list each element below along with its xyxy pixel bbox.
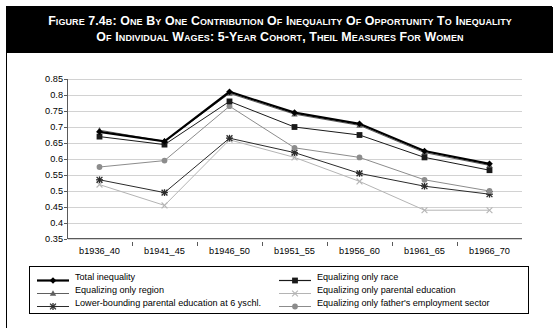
x-axis-tick-label: b1941_45 [144,246,185,256]
data-point-square [227,99,233,105]
legend-item[interactable]: Total inequality [36,271,272,284]
figure-title-banner: Figure 7.4b: One by One Contribution of … [7,7,553,53]
x-axis-tickmark [457,242,458,246]
series-layer [67,79,522,239]
legend-marker-diamond-icon [36,272,70,283]
x-axis-tick-label: b1951_55 [274,246,315,256]
data-point-asterisk [421,183,428,190]
chart-legend: Total inequalityEqualizing only raceEqua… [29,266,529,314]
x-axis-tick-label: b1961_65 [404,246,445,256]
data-point-circle [292,304,298,310]
chart-plate: 0.850.80.750.70.650.60.550.50.450.40.35 … [7,53,553,329]
x-axis-tick-label: b1956_60 [339,246,380,256]
series-lower-bounding-parental-education-at-6-yschl [96,135,493,198]
data-point-square [487,167,493,173]
legend-item-label: Total inequality [75,272,135,283]
x-axis-tick-label: b1936_40 [79,246,120,256]
figure-title-line-2: of Individual Wages: 5-year Cohort, Thei… [96,30,463,44]
data-point-circle [97,164,103,170]
x-axis-tick-label: b1966_70 [469,246,510,256]
x-axis-tickmark [327,242,328,246]
page-title: Figure 7.4b: One by One Contribution of … [48,14,512,45]
legend-item-label: Equalizing only region [75,285,164,296]
legend-item[interactable]: Equalizing only region [36,284,272,297]
legend-marker-circle-icon [278,298,312,309]
figure-number-label: Figure 7.4b: [48,14,117,28]
x-axis-tickmark [197,242,198,246]
x-axis-tick-label: b1946_50 [209,246,250,256]
data-point-circle [487,188,493,194]
legend-item-label: Equalizing only race [317,272,398,283]
legend-item-label: Equalizing only parental education [317,285,456,296]
data-point-asterisk [96,176,103,183]
data-point-diamond [486,161,493,168]
data-point-square [357,132,363,138]
figure-page: Figure 7.4b: One by One Contribution of … [0,0,558,336]
data-point-x [357,179,363,185]
series-equalizing-only-father-s-employment-sector [97,103,493,194]
data-point-x [162,203,168,209]
legend-item[interactable]: Equalizing only parental education [278,284,522,297]
legend-marker-asterisk-icon [36,298,70,309]
figure-title-line-1: One by One Contribution of Inequality of… [120,14,512,28]
legend-item-label: Equalizing only father's employment sect… [317,298,490,309]
legend-marker-square-icon [278,272,312,283]
legend-item[interactable]: Lower-bounding parental education at 6 y… [36,297,272,310]
y-axis-tickmarks [7,79,67,239]
x-axis-tickmark [132,242,133,246]
data-point-circle [162,158,168,164]
figure-frame: Figure 7.4b: One by One Contribution of … [6,6,552,328]
data-point-asterisk [50,303,57,310]
data-point-asterisk [226,135,233,142]
legend-item-label: Lower-bounding parental education at 6 y… [75,298,261,309]
data-point-asterisk [161,189,168,196]
x-axis-labels: b1936_40b1941_45b1946_50b1951_55b1956_60… [67,242,522,264]
legend-grid: Total inequalityEqualizing only raceEqua… [36,271,522,309]
legend-marker-x-icon [278,285,312,296]
data-point-square [292,124,298,130]
data-point-square [422,155,428,161]
data-point-circle [357,155,363,161]
data-point-square [292,278,298,284]
data-point-circle [292,145,298,151]
legend-item[interactable]: Equalizing only father's employment sect… [278,297,522,310]
data-point-diamond [50,277,57,284]
x-axis-tickmark [392,242,393,246]
x-axis-tickmark [262,242,263,246]
legend-marker-triangle-icon [36,285,70,296]
y-axis-tickmark [64,239,67,240]
data-point-asterisk [356,170,363,177]
gridline [68,239,522,240]
legend-item[interactable]: Equalizing only race [278,271,522,284]
data-point-circle [422,177,428,183]
